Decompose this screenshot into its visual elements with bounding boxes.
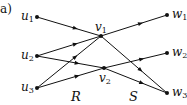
set-label-r: R <box>71 89 81 104</box>
panel-label: a) <box>0 2 12 16</box>
arrowhead-icon <box>72 26 77 30</box>
edge-u2-v2 <box>37 56 104 68</box>
bipartite-flow-diagram: a) u1 u2 u3 v1 v2 w1 w2 w3 R S <box>0 0 187 105</box>
node-label-v1: v1 <box>95 21 107 35</box>
node-w1 <box>165 13 169 17</box>
edge-v1-w3 <box>101 36 167 93</box>
arrowhead-icon <box>139 80 144 84</box>
node-w2 <box>165 51 169 55</box>
node-label-u1: u1 <box>21 10 34 24</box>
node-u3 <box>35 86 39 90</box>
node-label-v2: v2 <box>99 72 111 86</box>
node-u1 <box>35 15 39 19</box>
edge-v1-w1 <box>101 15 167 36</box>
node-label-w1: w1 <box>172 8 187 22</box>
node-label-w3: w3 <box>172 86 187 100</box>
edge-u1-v1 <box>37 17 101 36</box>
arrowhead-icon <box>72 43 77 47</box>
node-label-u3: u3 <box>21 81 34 95</box>
arrowhead-icon <box>74 61 79 65</box>
edge-u2-v1 <box>37 36 101 56</box>
node-w3 <box>165 91 169 95</box>
node-v2 <box>102 66 106 70</box>
arrowhead-icon <box>138 22 143 26</box>
arrowhead-icon <box>74 75 79 79</box>
set-label-s: S <box>129 89 138 104</box>
edge-u3-v1 <box>37 36 101 88</box>
node-label-u2: u2 <box>21 49 34 63</box>
node-u2 <box>35 54 39 58</box>
node-label-w2: w2 <box>172 46 187 60</box>
edge-u3-v2 <box>37 68 104 88</box>
